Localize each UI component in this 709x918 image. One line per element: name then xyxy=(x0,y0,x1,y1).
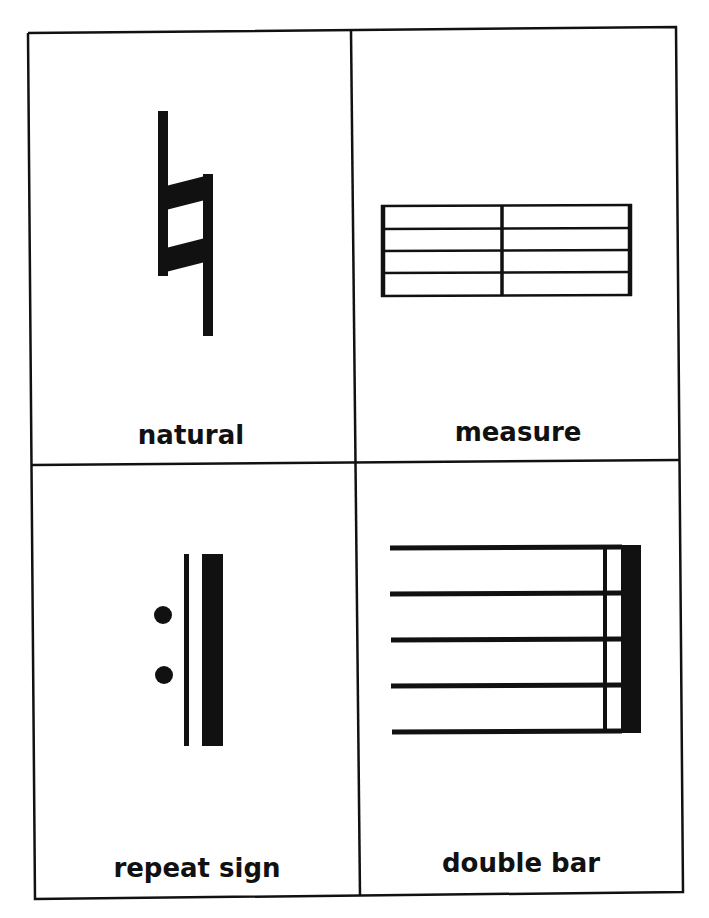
card-label-repeat-sign: repeat sign xyxy=(113,853,280,883)
card-label-measure: measure xyxy=(455,417,582,447)
natural-sign-icon xyxy=(158,111,213,336)
card-repeat-sign: repeat sign xyxy=(113,554,280,883)
double-bar-icon xyxy=(390,545,641,733)
measure-staff-icon xyxy=(381,204,632,297)
card-natural: natural xyxy=(138,111,244,450)
card-grid xyxy=(28,27,683,899)
card-label-natural: natural xyxy=(138,420,244,450)
repeat-sign-icon xyxy=(154,554,223,746)
card-measure: measure xyxy=(381,204,632,447)
card-label-double-bar: double bar xyxy=(442,848,600,878)
card-double-bar: double bar xyxy=(390,545,641,878)
flashcard-sheet: natural measure repeat sign xyxy=(0,0,709,918)
